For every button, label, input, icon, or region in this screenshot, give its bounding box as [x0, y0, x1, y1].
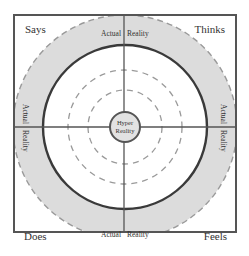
- ring-label-bottom-reality: Reality: [127, 230, 149, 239]
- ring-label-bottom-actual: Actual: [101, 230, 121, 239]
- quadrant-label-thinks: Thinks: [194, 23, 225, 35]
- center-label-reality: Reality: [116, 127, 136, 134]
- quadrant-label-feels: Feels: [204, 230, 227, 242]
- ring-label-right-actual: Actual: [219, 104, 228, 124]
- ring-label-left-actual: Actual: [21, 104, 30, 124]
- quadrant-label-does: Does: [24, 230, 47, 242]
- ring-label-right-reality: Reality: [219, 130, 228, 152]
- ring-label-left-reality: Reality: [21, 130, 30, 152]
- quadrant-label-says: Says: [25, 23, 46, 35]
- empathy-map-diagram: Says Thinks Does Feels Actual Reality Ac…: [0, 0, 249, 256]
- center-label-hyper: Hyper: [117, 119, 134, 126]
- ring-label-top-actual: Actual: [101, 29, 121, 38]
- ring-label-top-reality: Reality: [127, 29, 149, 38]
